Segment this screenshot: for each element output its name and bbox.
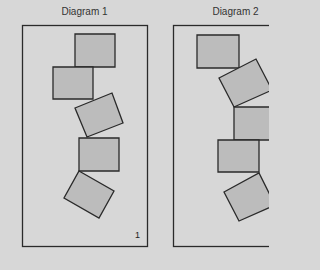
block-5 [64, 171, 114, 218]
block-1 [75, 34, 115, 67]
diagram-1-number: 1 [135, 230, 140, 240]
diagram-2-blocks [197, 35, 269, 221]
block-3 [234, 107, 269, 140]
block-2 [53, 67, 93, 99]
block-5 [224, 173, 269, 221]
block-4 [79, 138, 119, 171]
block-4 [218, 140, 259, 172]
block-1 [197, 35, 239, 68]
diagram-1-blocks [53, 34, 123, 218]
